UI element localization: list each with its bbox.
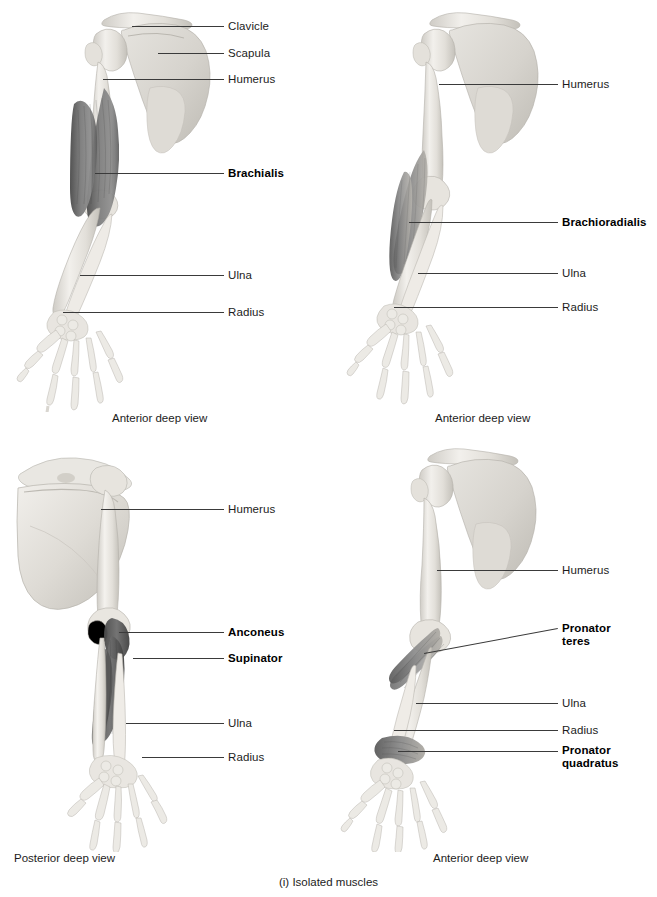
leader-line (439, 84, 558, 85)
leader-line (103, 79, 224, 80)
leader-line (119, 632, 224, 633)
leader-line (394, 307, 558, 308)
leader-line (80, 275, 224, 276)
leader-line (63, 312, 224, 313)
leader-line (437, 570, 558, 571)
label-radius: Radius (228, 751, 264, 764)
leader-line (416, 703, 558, 704)
leader-line (158, 53, 224, 54)
label-pronator-teres: Pronator teres (562, 622, 611, 648)
view-caption: Anterior deep view (433, 852, 528, 864)
label-pronator-quadratus: Pronator quadratus (562, 744, 619, 770)
leader-line (126, 723, 224, 724)
label-radius: Radius (228, 306, 264, 319)
label-radius: Radius (562, 301, 598, 314)
leader-line (142, 757, 224, 758)
panel-anterior-deep-brachialis: ClavicleScapulaHumerusBrachialisUlnaRadi… (0, 0, 328, 440)
leader-line (132, 26, 224, 27)
view-caption: Anterior deep view (112, 412, 207, 424)
label-humerus: Humerus (228, 503, 275, 516)
illustration-anconeus-supinator (0, 440, 328, 852)
leader-line (418, 273, 558, 274)
leader-line (394, 730, 558, 731)
view-caption: Posterior deep view (14, 852, 115, 864)
label-ulna: Ulna (562, 697, 586, 710)
leader-line (95, 173, 224, 174)
label-scapula: Scapula (228, 47, 270, 60)
illustration-brachioradialis (328, 0, 656, 412)
label-ulna: Ulna (562, 267, 586, 280)
label-brachialis: Brachialis (228, 167, 284, 180)
label-humerus: Humerus (562, 78, 609, 91)
view-caption: Anterior deep view (435, 412, 530, 424)
label-humerus: Humerus (228, 73, 275, 86)
leader-line (398, 751, 558, 752)
label-clavicle: Clavicle (228, 20, 269, 33)
label-anconeus: Anconeus (228, 626, 284, 639)
label-ulna: Ulna (228, 717, 252, 730)
figure-isolated-muscles: ClavicleScapulaHumerusBrachialisUlnaRadi… (0, 0, 657, 897)
label-humerus: Humerus (562, 564, 609, 577)
panel-anterior-deep-brachioradialis: HumerusBrachioradialisUlnaRadius Anterio… (328, 0, 656, 440)
label-radius: Radius (562, 724, 598, 737)
leader-line (101, 509, 224, 510)
label-ulna: Ulna (228, 269, 252, 282)
label-brachioradialis: Brachioradialis (562, 216, 647, 229)
leader-line (133, 658, 224, 659)
panel-posterior-deep-anconeus-supinator: HumerusAnconeusSupinatorUlnaRadius Poste… (0, 440, 328, 880)
leader-line (409, 222, 558, 223)
figure-caption: (i) Isolated muscles (0, 876, 657, 888)
label-supinator: Supinator (228, 652, 283, 665)
illustration-brachialis (0, 0, 328, 412)
panel-anterior-deep-pronators: Pronator teresHumerusUlnaRadiusPronator … (328, 440, 656, 880)
